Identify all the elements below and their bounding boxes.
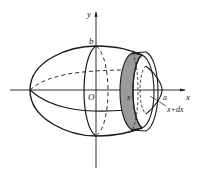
cross-section-back bbox=[96, 46, 108, 136]
profile-curve-lower bbox=[30, 90, 128, 111]
slice-outer-cap bbox=[142, 55, 154, 128]
b-label: b bbox=[89, 36, 94, 46]
slice-shaded-region bbox=[120, 53, 142, 130]
cross-section-front bbox=[84, 46, 96, 136]
origin-label: O bbox=[88, 92, 95, 102]
slice-x-label: x bbox=[126, 93, 131, 102]
ellipsoid-diagram: y b O x a x x+dx bbox=[0, 0, 197, 181]
cylinder-front-face bbox=[146, 52, 158, 131]
y-axis-label: y bbox=[86, 9, 91, 19]
profile-curve-back bbox=[30, 70, 128, 90]
x-plus-dx-label: x+dx bbox=[166, 105, 184, 114]
x-axis-label: x bbox=[185, 92, 190, 102]
a-label: a bbox=[163, 93, 167, 102]
